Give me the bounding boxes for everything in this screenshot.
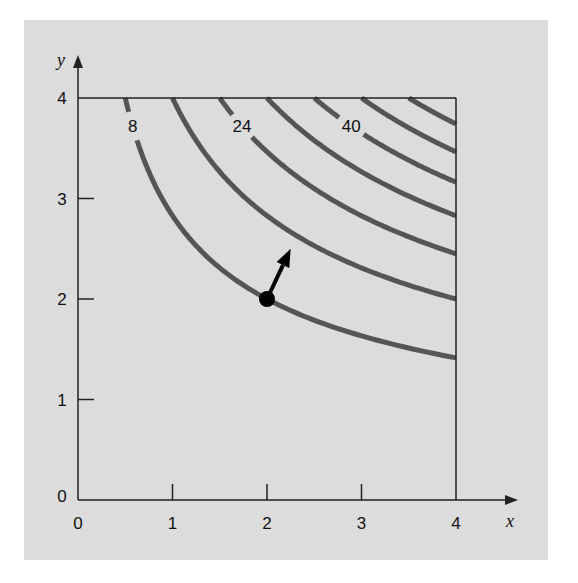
y-axis-arrow-icon [73,55,83,68]
x-tick-label: 2 [262,514,271,533]
contour-line-8 [125,98,456,358]
y-axis-label: y [55,50,65,70]
gradient-arrow-head-icon [277,249,291,268]
x-tick-label: 4 [451,514,460,533]
x-tick-label: 1 [168,514,177,533]
contour-label-24: 24 [232,117,251,136]
x-axis-label: x [505,511,514,531]
y-tick-label: 3 [57,190,66,209]
contour-chart: xy0123401234 82440 [0,0,578,583]
annotations [259,249,291,307]
x-tick-label: 3 [357,514,366,533]
y-tick-label: 4 [57,89,66,108]
contour-labels: 82440 [128,117,361,136]
contour-label-8: 8 [128,117,137,136]
contour-line-56 [409,98,456,124]
x-axis-arrow-icon [505,495,518,505]
gradient-arrow-shaft [267,265,283,299]
contour-label-40: 40 [342,117,361,136]
contour-lines [118,98,456,358]
y-tick-label: 2 [57,290,66,309]
y-tick-label: 0 [57,487,66,506]
y-tick-label: 1 [57,391,66,410]
x-tick-label: 0 [73,514,82,533]
